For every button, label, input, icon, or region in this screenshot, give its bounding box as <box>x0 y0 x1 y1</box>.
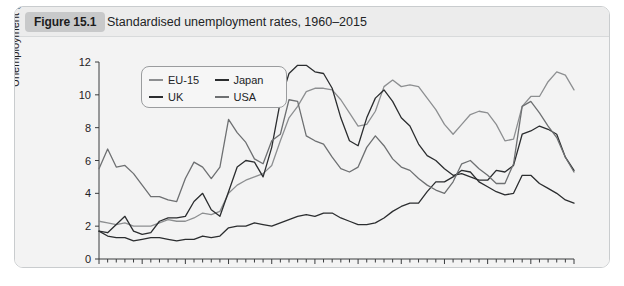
svg-text:2005: 2005 <box>475 267 499 268</box>
series-line-japan <box>99 170 574 241</box>
legend-label-usa: USA <box>234 91 257 103</box>
legend-item-japan: Japan <box>215 74 281 86</box>
svg-text:1990: 1990 <box>346 267 370 268</box>
legend-item-usa: USA <box>215 91 281 103</box>
legend-line-swatch-icon <box>149 79 163 81</box>
legend-item-uk: UK <box>149 91 215 103</box>
legend-label-eu15: EU-15 <box>168 74 199 86</box>
legend-row-2: UK USA <box>149 88 280 105</box>
series-line-usa <box>99 100 574 202</box>
svg-text:2015: 2015 <box>562 267 578 268</box>
legend-row-1: EU-15 Japan <box>149 71 280 88</box>
svg-text:10: 10 <box>79 89 91 101</box>
chart-area: 0246810121960196519701975198019851990199… <box>33 37 578 268</box>
svg-text:6: 6 <box>85 155 91 167</box>
svg-text:1980: 1980 <box>259 267 283 268</box>
svg-text:1970: 1970 <box>173 267 197 268</box>
y-axis-label: Unemployment (% of workforce) <box>14 6 21 87</box>
figure-title: Standardised unemployment rates, 1960–20… <box>107 12 367 32</box>
svg-text:2010: 2010 <box>519 267 543 268</box>
legend-item-eu15: EU-15 <box>149 74 215 86</box>
chart-legend: EU-15 Japan UK USA <box>141 66 287 108</box>
svg-text:1985: 1985 <box>303 267 327 268</box>
legend-line-swatch-icon <box>215 79 229 81</box>
svg-text:1960: 1960 <box>87 267 111 268</box>
figure-caption-bar: Figure 15.1 Standardised unemployment ra… <box>15 7 609 37</box>
svg-text:4: 4 <box>85 187 91 199</box>
chart-plot-panel: Unemployment (% of workforce) 0246810121… <box>15 37 610 268</box>
legend-line-swatch-icon <box>149 96 163 98</box>
svg-text:1995: 1995 <box>389 267 413 268</box>
figure-number-badge: Figure 15.1 <box>25 12 105 32</box>
svg-text:0: 0 <box>85 253 91 265</box>
svg-text:2000: 2000 <box>432 267 456 268</box>
legend-line-swatch-icon <box>215 96 229 98</box>
svg-text:1975: 1975 <box>216 267 240 268</box>
svg-text:12: 12 <box>79 56 91 68</box>
legend-label-japan: Japan <box>234 74 264 86</box>
svg-text:2: 2 <box>85 220 91 232</box>
svg-text:8: 8 <box>85 122 91 134</box>
legend-label-uk: UK <box>168 91 183 103</box>
unemployment-line-chart: 0246810121960196519701975198019851990199… <box>33 37 578 268</box>
figure-card: Figure 15.1 Standardised unemployment ra… <box>14 6 610 268</box>
svg-text:1965: 1965 <box>130 267 154 268</box>
